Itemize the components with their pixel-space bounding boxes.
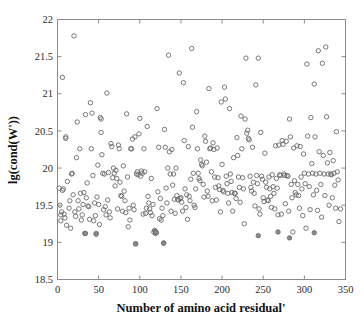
scatter-plot-figure: 18.51919.52020.52121.522 050100150200250… xyxy=(0,0,364,327)
y-axis-title: lg(cond(W')) xyxy=(6,116,20,184)
data-point-filled xyxy=(133,242,137,246)
data-point-filled xyxy=(154,231,158,235)
plot-canvas: 18.51919.52020.52121.522 050100150200250… xyxy=(0,0,364,327)
data-point-filled xyxy=(287,236,291,240)
data-point-filled xyxy=(256,233,260,237)
x-tick-label: 250 xyxy=(255,284,271,295)
y-tick-label: 19.5 xyxy=(35,200,53,211)
y-tick-label: 22 xyxy=(43,14,54,25)
data-point-filled xyxy=(312,231,316,235)
data-point-filled xyxy=(94,232,98,236)
data-point-filled xyxy=(161,241,165,245)
y-tick-label: 21.5 xyxy=(35,51,53,62)
y-tick-label: 18.5 xyxy=(35,274,53,285)
y-tick-label: 20 xyxy=(43,163,54,174)
x-tick-label: 350 xyxy=(338,284,354,295)
y-tick-label: 19 xyxy=(43,237,54,248)
x-axis-title: Number of amino acid residual' xyxy=(117,301,286,315)
y-tick-label: 21 xyxy=(43,88,54,99)
x-tick-label: 50 xyxy=(93,284,104,295)
data-point-filled xyxy=(276,230,280,234)
x-tick-label: 100 xyxy=(132,284,148,295)
x-tick-label: 300 xyxy=(296,284,312,295)
data-point-filled xyxy=(83,231,87,235)
y-tick-label: 20.5 xyxy=(35,126,53,137)
x-tick-label: 150 xyxy=(173,284,189,295)
x-tick-label: 200 xyxy=(214,284,230,295)
x-tick-label: 0 xyxy=(55,284,60,295)
